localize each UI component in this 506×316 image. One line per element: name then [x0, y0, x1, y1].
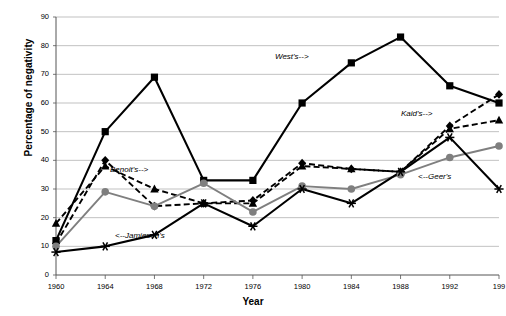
data-point-marker	[495, 142, 503, 150]
series-line-wests	[56, 37, 499, 241]
negativity-line-chart: Percentage of negativity Year 0102030405…	[0, 0, 506, 316]
data-point-marker	[348, 185, 356, 193]
x-tick-label: 1972	[184, 282, 224, 291]
y-tick-label: 30	[27, 184, 49, 193]
data-point-marker	[495, 99, 502, 106]
data-point-marker	[495, 90, 503, 99]
x-tick-label: 1992	[430, 282, 470, 291]
plot-area	[0, 0, 506, 316]
x-tick-label: 199	[479, 282, 506, 291]
data-point-marker	[249, 177, 256, 184]
x-axis-title: Year	[0, 296, 506, 307]
data-point-marker	[446, 154, 454, 162]
data-point-marker	[151, 74, 158, 81]
data-point-marker	[348, 59, 355, 66]
series-annotation: <--Jamieson's	[115, 231, 165, 240]
y-tick-label: 10	[27, 241, 49, 250]
y-tick-label: 90	[27, 12, 49, 21]
x-tick-label: 1976	[233, 282, 273, 291]
data-point-marker	[249, 208, 257, 216]
x-tick-label: 1960	[36, 282, 76, 291]
data-point-marker	[200, 179, 208, 187]
data-point-marker	[299, 99, 306, 106]
data-point-marker	[397, 33, 404, 40]
data-point-marker	[52, 243, 60, 251]
y-tick-label: 20	[27, 213, 49, 222]
x-tick-label: 1984	[331, 282, 371, 291]
data-point-marker	[102, 128, 109, 135]
series-annotation: Benoit's-->	[110, 165, 148, 174]
data-point-marker	[150, 185, 158, 193]
series-annotation: West's-->	[275, 52, 309, 61]
x-tick-label: 1980	[282, 282, 322, 291]
x-tick-label: 1988	[381, 282, 421, 291]
data-point-marker	[249, 196, 257, 205]
data-point-marker	[151, 202, 159, 210]
data-point-marker	[101, 188, 109, 196]
data-point-marker	[101, 242, 110, 250]
series-annotation: Kaid's-->	[401, 109, 433, 118]
x-tick-label: 1968	[134, 282, 174, 291]
x-tick-label: 1964	[85, 282, 125, 291]
y-tick-label: 80	[27, 41, 49, 50]
data-point-marker	[446, 82, 453, 89]
y-tick-label: 60	[27, 98, 49, 107]
data-point-marker	[495, 116, 503, 124]
y-tick-label: 70	[27, 69, 49, 78]
y-tick-label: 40	[27, 155, 49, 164]
series-annotation: <--Geer's	[418, 172, 451, 181]
y-tick-label: 0	[27, 270, 49, 279]
data-point-marker	[446, 122, 454, 131]
y-tick-label: 50	[27, 127, 49, 136]
